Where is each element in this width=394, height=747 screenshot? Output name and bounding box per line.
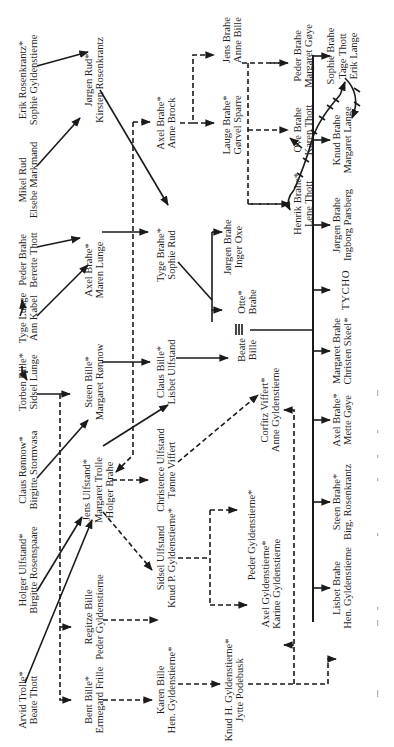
person-name-line: Mette Gøye [342, 395, 353, 445]
person-lauge-brahe: Lauge Brahe*Gørvel Sparre [221, 95, 244, 155]
knud-to-corfitz [284, 410, 294, 684]
person-name-line: Tønne Viffert [166, 441, 177, 498]
person-name-line: Gørvel Sparre [232, 95, 243, 155]
person-name-line: Tyge Brahe* [155, 228, 166, 282]
person-claus-ronnow: Claus Rønnow*Birgitte Stormvasa [17, 430, 40, 509]
person-karen-bille: Karen BilleHen. Gyldenstierne* [155, 647, 178, 734]
person-torben-bille: Torben Bille*Sidsel Lunge [17, 353, 40, 411]
person-name-line: Ermegard Frille [94, 666, 105, 733]
person-name-line: Inger Oxe [233, 226, 244, 269]
person-name-line: Corfitz Viffert* [259, 377, 270, 442]
person-name-line: Jørgen Brahe [331, 197, 342, 253]
person-name-line: Lisbet Ulfstand [166, 339, 177, 405]
person-erik-rosenkrantz: Erik Rosenkrantz*Sophie Gyldenstierne [17, 34, 40, 125]
person-margaret-brahe: Margaret BraheChristen Skeel* [331, 318, 354, 385]
person-sophie-brahe: Sophie BraheTage ThottErik Lange [325, 27, 359, 84]
bille-dashed-trunk [60, 394, 71, 700]
person-steen-brahe: Steen Brahe*Birg. Rosenkrantz [331, 464, 354, 541]
person-name-line: Sophie Gyldenstierne [28, 34, 39, 125]
person-peder-brahe: Peder BraheMargaret Gøye [292, 24, 315, 88]
person-name-line: Margaret Rønnow [94, 343, 105, 420]
person-jorgen-brahe-ingborg: Jørgen BraheIngborg Parsberg [331, 188, 354, 261]
person-peder-gyldenstierne: Peder Gyldenstierne* [246, 490, 257, 581]
person-name-line: Bent Bille* [83, 676, 94, 724]
person-steen-bille: Steen Bille*Margaret Rønnow [83, 343, 106, 420]
person-name-line: Sidsel Lunge [28, 354, 39, 409]
tyge-to-branch [178, 262, 212, 300]
person-name-line: Otte* [236, 290, 247, 313]
person-axel-brahe-mette: Axel Brahe*Mette Gøye [331, 393, 354, 446]
person-name-line: Beate [236, 338, 247, 362]
person-name-line: Margaret Gøye [303, 24, 314, 88]
person-regitze-bille: Regitze BillePeder Gyldenstierne [83, 574, 106, 660]
person-name-line: Anne Gyldenstierne [270, 368, 281, 453]
person-name-line: Knud P. Gyldenstierne* [166, 508, 177, 608]
person-axel-brahe-anne: Axel Brahe*Anne Brock [155, 96, 178, 149]
erik-to-jorgen-rud [37, 52, 88, 66]
person-name-line: Hen. Gyldenstierne* [166, 647, 177, 734]
person-jorgen-rud: Jørgen Rud*Kirsten Rosenkrantz [83, 37, 106, 123]
person-name-line: Erik Lange [348, 32, 359, 79]
person-name-line: Peder Brahe [17, 234, 28, 286]
tyge-lunge-to-axel-brahe [37, 265, 88, 316]
person-name-line: Ann Kabel [28, 295, 39, 341]
person-name-line: Axel Brahe* [155, 96, 166, 149]
person-lisbet-brahe: Lisbet BraheHen. Gyldenstierne [331, 547, 354, 629]
axel-anne-to-jens [180, 55, 214, 123]
person-name-line: Bille [247, 339, 258, 360]
person-name-line: Lisbet Brahe [331, 561, 342, 615]
person-knud-brahe: Knud BraheMargaret Lange [331, 106, 354, 173]
person-name-line: Erik Rosenkrantz* [17, 41, 28, 119]
person-name-line: Peder Brahe [292, 30, 303, 82]
person-mikel-rud: Mikel RudElsebe Markmand [17, 141, 40, 218]
person-name-line: Axel Brahe* [83, 243, 94, 296]
person-name-line: Jytte Podebusk [234, 658, 245, 722]
person-name-line: Regitze Bille [83, 589, 94, 644]
person-name-line: Henrik Brahe* [292, 173, 303, 235]
mikel-to-jorgen-rud [37, 118, 80, 166]
person-name-line: Maren Lunge [94, 241, 105, 298]
person-name-line: Berette Thott [28, 232, 39, 288]
person-name-line: Hen. Gyldenstierne [342, 547, 353, 629]
person-beate-bille: BeateBille [236, 338, 259, 362]
person-name-line: Jørgen Rud* [83, 53, 94, 106]
person-labels: Erik Rosenkrantz*Sophie GyldenstierneMik… [17, 17, 359, 742]
person-name-line: Lene Thott [303, 181, 314, 227]
person-christence-ulfstand: Christence UlfstandTønne Viffert [155, 427, 178, 511]
knud-to-lisbet [248, 659, 336, 684]
person-tyge-lunge: Tyge LungeAnn Kabel [17, 293, 40, 344]
person-name-line: Claus Rønnow* [17, 436, 28, 503]
person-name-line: Knud H. Gyldenstierne* [223, 639, 234, 742]
caption-fragments [377, 390, 378, 697]
person-bent-bille: Bent Bille*Ermegard Frille [83, 666, 106, 733]
curve-tick-6 [354, 88, 360, 92]
person-name-line: Holger Ulfstand* [17, 533, 28, 606]
person-name-line: Anne Brock [166, 97, 177, 149]
person-name-line: Jørgen Brahe [222, 219, 233, 275]
person-name-line: Margaret Trolle [93, 457, 104, 523]
person-name-line: Karen Bille [155, 665, 166, 714]
person-name-line: Tage Thott [337, 33, 348, 79]
person-name-line: Sophie Rud [166, 230, 177, 280]
person-name-line: Lauge Brahe* [221, 95, 232, 154]
person-name-line: Torben Bille* [17, 353, 28, 411]
kin-curve-1-arrow [340, 82, 345, 95]
person-axel-brahe-maren: Axel Brahe*Maren Lunge [83, 241, 106, 298]
person-name-line: Ove Brahe [292, 107, 303, 153]
person-otte-brahe: Otte*Brahe [236, 289, 259, 314]
person-corfitz-viffert: Corfitz Viffert*Anne Gyldenstierne [259, 368, 282, 453]
person-tycho: TYCHO [339, 270, 351, 310]
person-name-line: Birgitte Rosenspaare [28, 526, 39, 614]
person-name-line: Sidsel Ulfstand [155, 525, 166, 590]
person-holger-ulfstand: Holger Ulfstand*Birgitte Rosenspaare [17, 526, 40, 614]
person-name-line: Karen Thott [303, 105, 314, 156]
person-name-line: Mikel Rud [17, 157, 28, 203]
person-name-line: Christence Ulfstand [155, 427, 166, 511]
person-jorgen-brahe-inger: Jørgen BraheInger Oxe [222, 219, 245, 275]
person-name-line: Peder Gyldenstierne [94, 574, 105, 660]
family-tree-diagram: Erik Rosenkrantz*Sophie GyldenstierneMik… [0, 0, 394, 747]
person-name-line: Elsebe Markmand [28, 141, 39, 218]
person-name-line: Arvid Trolle* [17, 671, 28, 728]
jens-to-sidsel [103, 512, 152, 570]
person-jens-brahe: Jens BraheAnne Bille [221, 17, 244, 63]
